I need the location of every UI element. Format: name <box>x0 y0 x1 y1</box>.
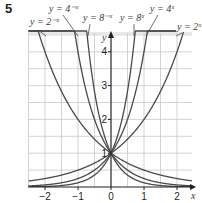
leader-line <box>88 24 90 36</box>
y-tick-label: 4 <box>101 46 107 57</box>
curve-y-8-x <box>29 31 192 187</box>
x-axis-label: x <box>190 190 196 201</box>
x-tick-label: 0 <box>108 191 114 202</box>
x-tick-label: 1 <box>141 191 147 202</box>
curve-y-2-x <box>29 31 192 181</box>
y-axis-label: y <box>101 32 107 43</box>
x-tick-label: −1 <box>72 191 84 202</box>
x-tick-label: 2 <box>174 191 180 202</box>
curve-label: y = 4⁻ˣ <box>48 3 79 14</box>
curve-y-4-x <box>29 31 192 186</box>
curve-label: y = 4ˣ <box>149 3 175 14</box>
x-tick-label: −2 <box>39 191 51 202</box>
curve-label: y = 8ˣ <box>119 12 145 23</box>
y-tick-label: 2 <box>101 114 107 125</box>
curve-label: y = 2ˣ <box>176 21 202 32</box>
exponential-graph: xy−2−10121234y = 2⁻ˣy = 4⁻ˣy = 8⁻ˣy = 8ˣ… <box>0 0 202 203</box>
y-tick-label: 3 <box>101 80 107 91</box>
curve-y-4-x <box>29 31 192 186</box>
curve-y-8-x <box>29 31 192 187</box>
y-tick-label: 1 <box>101 148 107 159</box>
curve-label: y = 2⁻ˣ <box>29 16 60 27</box>
curve-y-2-x <box>29 31 192 181</box>
curve-label: y = 8⁻ˣ <box>82 12 113 23</box>
